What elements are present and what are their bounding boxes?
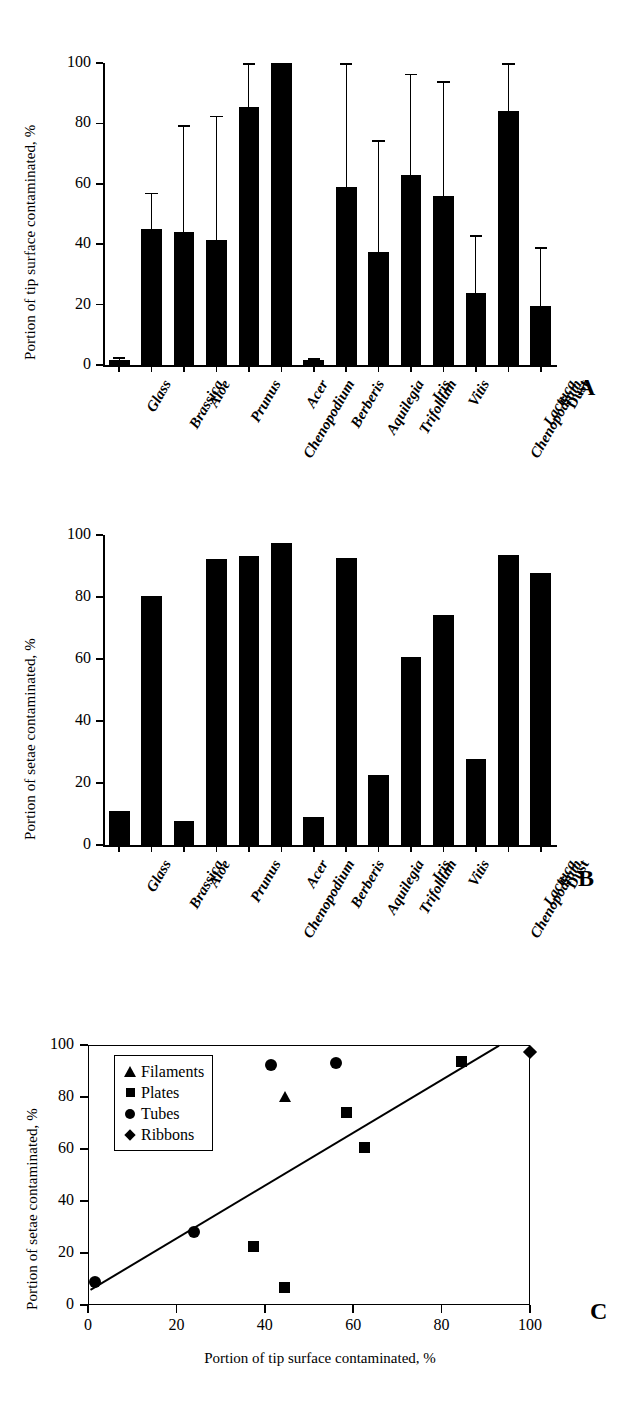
panel-b-ylabel: Portion of setae contaminated, %: [22, 638, 39, 840]
y-tick: [96, 782, 103, 784]
error-bar-cap: [372, 140, 384, 142]
x-tick: [216, 365, 218, 372]
error-bar-cap: [210, 116, 222, 118]
panel-c-letter: C: [590, 1298, 607, 1325]
bar: [401, 175, 422, 365]
panel-a: Portion of tip surface contaminated, % A…: [0, 0, 631, 500]
x-tick: [410, 365, 412, 372]
x-tick: [281, 845, 283, 852]
bar: [466, 759, 487, 845]
error-bar-cap: [178, 125, 190, 127]
category-label: Prunus: [246, 857, 284, 905]
y-tick-label: 0: [57, 356, 91, 372]
x-tick: [378, 365, 380, 372]
y-tick: [96, 720, 103, 722]
y-tick-label: 60: [40, 1140, 74, 1156]
category-label: Glass: [143, 377, 175, 415]
error-bar: [378, 140, 379, 252]
bar: [271, 63, 292, 365]
bar: [336, 187, 357, 365]
x-tick: [151, 845, 153, 852]
x-tick: [118, 365, 120, 372]
y-tick: [96, 364, 103, 366]
data-point-filaments: [279, 1091, 291, 1102]
bar: [466, 293, 487, 365]
y-tick-label: 20: [40, 1244, 74, 1260]
x-tick: [281, 365, 283, 372]
bar: [174, 232, 195, 365]
x-tick: [313, 845, 315, 852]
x-tick: [118, 845, 120, 852]
x-tick: [443, 845, 445, 852]
x-tick-label: 80: [420, 1317, 464, 1333]
error-bar: [346, 63, 347, 187]
x-tick: [216, 845, 218, 852]
data-point-plates: [248, 1241, 259, 1252]
data-point-plates: [456, 1056, 467, 1067]
bar: [206, 559, 227, 845]
panel-c-xlabel: Portion of tip surface contaminated, %: [80, 1350, 560, 1367]
bar: [271, 543, 292, 845]
error-bar-cap: [308, 358, 320, 360]
y-tick-label: 40: [57, 712, 91, 728]
bar: [206, 240, 227, 365]
y-tick-label: 20: [57, 296, 91, 312]
error-bar-cap: [145, 193, 157, 195]
x-tick: [441, 1305, 443, 1313]
x-tick-label: 20: [154, 1317, 198, 1333]
y-tick: [80, 1252, 88, 1254]
error-bar: [508, 63, 509, 111]
error-bar: [216, 116, 217, 240]
y-tick: [96, 844, 103, 846]
y-tick-label: 0: [40, 1296, 74, 1312]
x-tick: [540, 845, 542, 852]
data-point-tubes: [89, 1276, 101, 1288]
bar: [174, 821, 195, 845]
x-tick: [345, 365, 347, 372]
error-bar-cap: [437, 81, 449, 83]
y-tick-label: 40: [40, 1192, 74, 1208]
data-point-tubes: [330, 1057, 342, 1069]
error-bar: [443, 81, 444, 196]
panel-c: Portion of setae contaminated, % Portion…: [0, 1020, 631, 1425]
x-tick: [443, 365, 445, 372]
y-tick: [96, 243, 103, 245]
x-tick: [313, 365, 315, 372]
x-tick: [508, 845, 510, 852]
y-tick-label: 80: [40, 1088, 74, 1104]
category-label: Vitis: [464, 377, 492, 409]
bar: [401, 657, 422, 845]
bar: [141, 596, 162, 845]
y-tick: [96, 304, 103, 306]
bar: [498, 111, 519, 365]
y-tick-label: 60: [57, 175, 91, 191]
x-tick: [151, 365, 153, 372]
y-tick-label: 100: [40, 1036, 74, 1052]
y-tick-label: 40: [57, 235, 91, 251]
y-tick: [96, 534, 103, 536]
y-axis-line: [103, 63, 105, 366]
y-tick: [96, 123, 103, 125]
bar: [530, 573, 551, 845]
x-tick: [352, 1305, 354, 1313]
x-tick-label: 60: [331, 1317, 375, 1333]
y-tick-label: 60: [57, 650, 91, 666]
data-point-plates: [359, 1142, 370, 1153]
y-tick: [80, 1044, 88, 1046]
x-tick: [248, 365, 250, 372]
category-label: Prunus: [246, 377, 284, 425]
error-bar: [410, 74, 411, 175]
x-tick-label: 0: [66, 1317, 110, 1333]
x-tick: [248, 845, 250, 852]
bar: [141, 229, 162, 365]
x-tick: [529, 1305, 531, 1313]
y-tick: [80, 1148, 88, 1150]
y-tick: [80, 1200, 88, 1202]
bar: [433, 615, 454, 845]
x-axis-line: [103, 365, 557, 367]
bar: [303, 817, 324, 845]
error-bar: [151, 193, 152, 229]
error-bar-cap: [243, 63, 255, 65]
error-bar: [475, 235, 476, 292]
error-bar-cap: [340, 63, 352, 65]
